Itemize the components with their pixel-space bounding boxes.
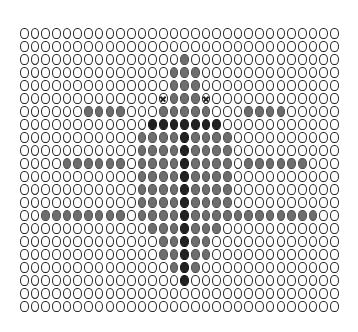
- gray-filled-oval-icon: [138, 171, 147, 183]
- grid-cell: [62, 183, 73, 196]
- grid-cell: [276, 261, 287, 274]
- empty-oval-icon: [20, 67, 29, 79]
- empty-oval-icon: [298, 106, 307, 118]
- grid-cell: [243, 144, 254, 157]
- empty-oval-icon: [63, 249, 72, 261]
- grid-cell: [329, 66, 340, 79]
- gray-filled-oval-icon: [170, 262, 179, 274]
- empty-oval-icon: [287, 106, 296, 118]
- grid-cell: [62, 196, 73, 209]
- grid-cell: [169, 261, 180, 274]
- empty-oval-icon: [116, 54, 125, 66]
- grid-cell: [72, 209, 83, 222]
- empty-oval-icon: [63, 171, 72, 183]
- grid-cell: [179, 40, 190, 53]
- grid-cell: [62, 66, 73, 79]
- grid-cell: [329, 157, 340, 170]
- grid-cell: [169, 248, 180, 261]
- gray-filled-oval-icon: [95, 210, 104, 222]
- empty-oval-icon: [63, 184, 72, 196]
- grid-cell: [297, 40, 308, 53]
- grid-cell: [297, 300, 308, 313]
- empty-oval-icon: [20, 41, 29, 53]
- grid-cell: [233, 235, 244, 248]
- gray-filled-oval-icon: [148, 223, 157, 235]
- gray-filled-oval-icon: [73, 210, 82, 222]
- empty-oval-icon: [148, 28, 157, 40]
- grid-cell: [158, 105, 169, 118]
- grid-cell: [105, 157, 116, 170]
- empty-oval-icon: [63, 132, 72, 144]
- grid-cell: [222, 131, 233, 144]
- empty-oval-icon: [138, 80, 147, 92]
- empty-oval-icon: [148, 288, 157, 300]
- grid-cell: [211, 209, 222, 222]
- gray-filled-oval-icon: [170, 80, 179, 92]
- grid-cell: [179, 157, 190, 170]
- grid-cell: [126, 274, 137, 287]
- empty-oval-icon: [170, 54, 179, 66]
- grid-cell: [147, 157, 158, 170]
- grid-cell: [190, 105, 201, 118]
- grid-cell: [254, 105, 265, 118]
- grid-cell: [147, 79, 158, 92]
- empty-oval-icon: [95, 223, 104, 235]
- grid-cell: [243, 40, 254, 53]
- grid-cell: [40, 170, 51, 183]
- grid-cell: [286, 40, 297, 53]
- gray-filled-oval-icon: [138, 184, 147, 196]
- grid-cell: [222, 53, 233, 66]
- grid-cell: [105, 248, 116, 261]
- empty-oval-icon: [95, 288, 104, 300]
- grid-cell: [297, 144, 308, 157]
- grid-cell: [19, 105, 30, 118]
- empty-oval-icon: [266, 119, 275, 131]
- grid-cell: [62, 40, 73, 53]
- grid-cell: [30, 183, 41, 196]
- empty-oval-icon: [287, 223, 296, 235]
- empty-oval-icon: [73, 197, 82, 209]
- empty-oval-icon: [159, 67, 168, 79]
- grid-cell: [158, 118, 169, 131]
- grid-cell: [211, 144, 222, 157]
- empty-oval-icon: [223, 80, 232, 92]
- empty-oval-icon: [244, 184, 253, 196]
- empty-oval-icon: [20, 119, 29, 131]
- dark-filled-oval-icon: [180, 145, 189, 157]
- grid-cell: [254, 222, 265, 235]
- empty-oval-icon: [287, 171, 296, 183]
- empty-oval-icon: [255, 262, 264, 274]
- empty-oval-icon: [116, 171, 125, 183]
- empty-oval-icon: [116, 119, 125, 131]
- empty-oval-icon: [319, 236, 328, 248]
- grid-cell: [147, 105, 158, 118]
- grid-cell: [19, 183, 30, 196]
- grid-cell: [297, 222, 308, 235]
- empty-oval-icon: [255, 197, 264, 209]
- empty-oval-icon: [73, 54, 82, 66]
- grid-cell: [329, 105, 340, 118]
- empty-oval-icon: [277, 184, 286, 196]
- grid-cell: [62, 79, 73, 92]
- empty-oval-icon: [73, 301, 82, 313]
- empty-oval-icon: [309, 275, 318, 287]
- empty-oval-icon: [180, 301, 189, 313]
- gray-filled-oval-icon: [202, 132, 211, 144]
- empty-oval-icon: [298, 288, 307, 300]
- empty-oval-icon: [138, 28, 147, 40]
- grid-cell: [201, 196, 212, 209]
- grid-cell: [190, 40, 201, 53]
- gray-filled-oval-icon: [277, 210, 286, 222]
- empty-oval-icon: [95, 93, 104, 105]
- grid-cell: [105, 131, 116, 144]
- grid-cell: [72, 222, 83, 235]
- grid-cell: [19, 79, 30, 92]
- grid-cell: [222, 274, 233, 287]
- grid-cell: [94, 53, 105, 66]
- grid-cell: [30, 53, 41, 66]
- grid-cell: [30, 27, 41, 40]
- grid-cell: [222, 261, 233, 274]
- grid-cell: [201, 144, 212, 157]
- grid-cell: [243, 27, 254, 40]
- grid-cell: [105, 92, 116, 105]
